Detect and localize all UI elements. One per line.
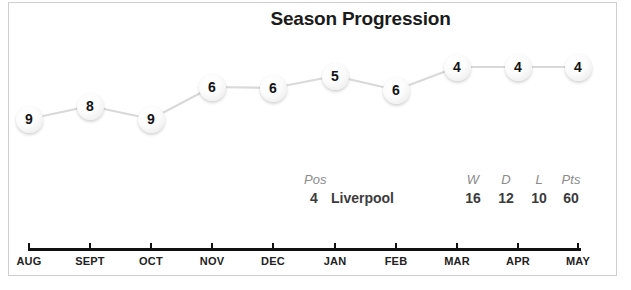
axis-label-feb: FEB	[385, 255, 408, 267]
axis-label-aug: AUG	[16, 255, 41, 267]
season-progression-widget: Season Progression 9896656444 Pos 4 Live…	[0, 0, 631, 290]
data-point-node: 4	[444, 54, 471, 81]
data-point-node: 8	[77, 93, 104, 120]
points-column-header: Pts	[556, 172, 586, 187]
axis-label-nov: NOV	[200, 255, 224, 267]
data-point-node: 4	[505, 54, 532, 81]
axis-label-dec: DEC	[261, 255, 285, 267]
axis-label-jan: JAN	[324, 255, 347, 267]
axis-label-sept: SEPT	[75, 255, 105, 267]
team-name: Liverpool	[331, 190, 394, 206]
axis-tick	[334, 243, 336, 249]
axis-tick	[456, 243, 458, 249]
x-axis-line	[28, 248, 581, 251]
data-point-node: 6	[383, 77, 410, 104]
wins-value: 16	[458, 190, 488, 206]
draws-value: 12	[491, 190, 521, 206]
axis-tick	[395, 243, 397, 249]
axis-tick	[28, 243, 30, 249]
data-point-node: 9	[16, 106, 43, 133]
losses-value: 10	[524, 190, 554, 206]
page-title: Season Progression	[0, 8, 631, 30]
axis-tick	[517, 243, 519, 249]
pos-column-header: Pos	[304, 172, 326, 187]
axis-tick	[211, 243, 213, 249]
axis-label-apr: APR	[506, 255, 530, 267]
data-point-node: 9	[138, 106, 165, 133]
data-point-node: 6	[260, 75, 287, 102]
widget-frame	[8, 2, 617, 276]
losses-column-header: L	[524, 172, 554, 187]
axis-tick	[150, 243, 152, 249]
axis-tick	[272, 243, 274, 249]
axis-label-mar: MAR	[444, 255, 470, 267]
team-summary-row: Pos 4 Liverpool W 16 D 12 L 10 Pts 60	[300, 172, 590, 218]
draws-column-header: D	[491, 172, 521, 187]
data-point-node: 4	[565, 54, 592, 81]
axis-tick	[577, 243, 579, 249]
data-point-node: 5	[322, 63, 349, 90]
data-point-node: 6	[199, 74, 226, 101]
pos-value: 4	[310, 190, 318, 206]
axis-label-oct: OCT	[139, 255, 163, 267]
axis-label-may: MAY	[566, 255, 590, 267]
points-value: 60	[556, 190, 586, 206]
axis-tick	[89, 243, 91, 249]
wins-column-header: W	[458, 172, 488, 187]
